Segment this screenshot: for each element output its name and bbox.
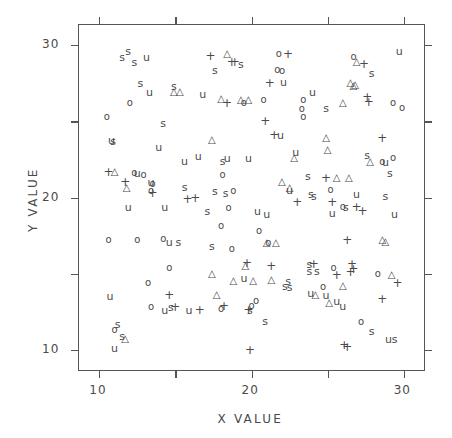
data-point-triangle: △ xyxy=(350,81,358,91)
data-point-o: o xyxy=(390,153,396,163)
data-point-s: s xyxy=(305,171,311,182)
data-point-s: s xyxy=(323,102,329,113)
data-point-triangle: △ xyxy=(249,276,257,286)
data-point-u: u xyxy=(353,189,360,200)
data-point-+: + xyxy=(342,341,352,353)
data-point-u: u xyxy=(240,273,247,284)
data-point-o: o xyxy=(279,66,285,76)
x-minor-tick-top xyxy=(175,17,176,24)
data-point-triangle: △ xyxy=(245,95,253,105)
data-point-triangle: △ xyxy=(263,238,271,248)
data-point-triangle: △ xyxy=(213,290,221,300)
y-major-tick xyxy=(71,198,78,199)
data-point-o: o xyxy=(230,186,236,196)
data-point-o: o xyxy=(218,304,224,314)
data-point-s: s xyxy=(262,315,268,326)
data-point-s: s xyxy=(287,282,293,293)
data-point-triangle: △ xyxy=(208,135,216,145)
data-point-u: u xyxy=(339,300,346,311)
x-tick-label: 30 xyxy=(394,383,411,397)
y-minor-tick xyxy=(71,274,78,275)
data-point-o: o xyxy=(148,302,154,312)
y-major-tick-right xyxy=(425,198,432,199)
data-point-o: o xyxy=(379,157,385,167)
data-point-o: o xyxy=(105,235,111,245)
data-point-u: u xyxy=(391,209,398,220)
data-point-triangle: △ xyxy=(339,98,347,108)
data-point-triangle: △ xyxy=(123,183,131,193)
data-point-triangle: △ xyxy=(217,94,225,104)
data-point-o: o xyxy=(166,263,172,273)
data-point-+: + xyxy=(266,260,276,272)
data-point-u: u xyxy=(263,209,270,220)
data-point-u: u xyxy=(108,134,115,145)
x-major-tick-top xyxy=(252,17,253,24)
data-point-o: o xyxy=(218,221,224,231)
data-point-+: + xyxy=(190,192,200,204)
data-point-u: u xyxy=(195,151,202,162)
scatter-plot-figure: 102030102030 sssssssssssssssssssssssssss… xyxy=(0,0,452,438)
data-point-o: o xyxy=(131,168,137,178)
data-point-triangle: △ xyxy=(223,49,231,59)
data-point-+: + xyxy=(205,50,215,62)
data-point-o: o xyxy=(261,95,267,105)
data-point-u: u xyxy=(254,206,261,217)
y-tick-label: 20 xyxy=(42,190,59,204)
data-point-u: u xyxy=(125,201,132,212)
data-point-o: o xyxy=(375,269,381,279)
data-point-u: u xyxy=(181,155,188,166)
x-tick-label: 10 xyxy=(89,383,106,397)
data-point-u: u xyxy=(155,142,162,153)
data-point-+: + xyxy=(348,263,358,275)
data-point-s: s xyxy=(392,334,398,345)
data-point-s: s xyxy=(125,46,131,57)
data-point-triangle: △ xyxy=(121,334,129,344)
data-point-s: s xyxy=(369,326,375,337)
data-point-o: o xyxy=(331,263,337,273)
data-point-+: + xyxy=(283,48,293,60)
data-point-triangle: △ xyxy=(324,145,332,155)
data-point-u: u xyxy=(245,152,252,163)
data-point-+: + xyxy=(269,129,279,141)
x-major-tick xyxy=(252,371,253,378)
data-point-triangle: △ xyxy=(345,173,353,183)
data-point-u: u xyxy=(396,46,403,57)
data-point-+: + xyxy=(292,196,302,208)
data-point-s: s xyxy=(204,206,210,217)
data-point-u: u xyxy=(166,236,173,247)
data-point-triangle: △ xyxy=(267,275,275,285)
data-point-u: u xyxy=(161,201,168,212)
data-point-+: + xyxy=(321,172,331,184)
data-point-o: o xyxy=(104,112,110,122)
data-point-+: + xyxy=(377,293,387,305)
data-point-s: s xyxy=(160,117,166,128)
data-point-triangle: △ xyxy=(312,290,320,300)
data-point-s: s xyxy=(131,57,137,68)
data-point-s: s xyxy=(311,190,317,201)
data-point-s: s xyxy=(138,78,144,89)
x-minor-tick xyxy=(175,371,176,378)
data-point-o: o xyxy=(229,244,235,254)
data-point-u: u xyxy=(224,152,231,163)
data-point-u: u xyxy=(111,343,118,354)
data-point-o: o xyxy=(140,170,146,180)
data-point-+: + xyxy=(358,205,368,217)
y-major-tick-right xyxy=(425,45,432,46)
x-major-tick-top xyxy=(404,17,405,24)
data-point-triangle: △ xyxy=(111,167,119,177)
data-point-+: + xyxy=(364,96,374,108)
data-point-s: s xyxy=(176,236,182,247)
data-point-o: o xyxy=(111,325,117,335)
data-point-triangle: △ xyxy=(278,177,286,187)
data-point-triangle: △ xyxy=(382,237,390,247)
y-minor-tick xyxy=(71,121,78,122)
data-point-+: + xyxy=(260,115,270,127)
data-point-triangle: △ xyxy=(388,270,396,280)
data-point-o: o xyxy=(399,103,405,113)
y-tick-label: 30 xyxy=(42,37,59,51)
data-point-triangle: △ xyxy=(208,269,216,279)
data-point-o: o xyxy=(134,235,140,245)
data-point-triangle: △ xyxy=(286,183,294,193)
data-point-triangle: △ xyxy=(272,238,280,248)
data-point-u: u xyxy=(385,334,392,345)
